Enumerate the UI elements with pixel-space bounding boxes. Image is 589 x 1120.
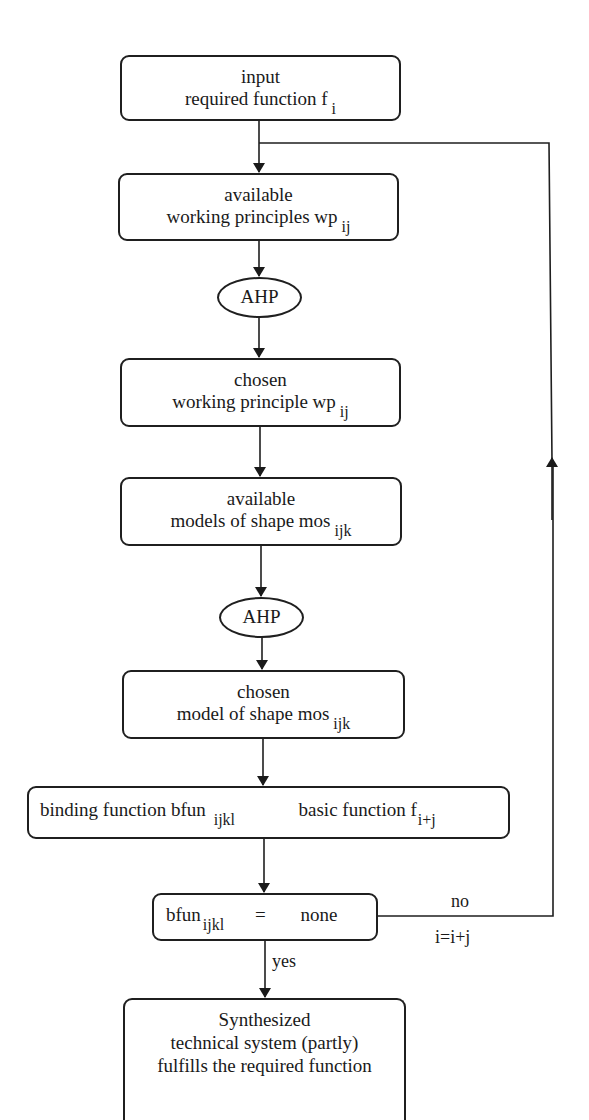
- node-result-line2: technical system (partly): [125, 1031, 404, 1054]
- node-chosen-model-of-shape: chosen model of shape mosijk: [122, 670, 405, 739]
- node-ahp-2: AHP: [219, 597, 304, 638]
- node-chosen-mos-line2: model of shape mos: [177, 703, 330, 724]
- node-result-synthesized-system: Synthesized technical system (partly) fu…: [123, 998, 406, 1120]
- node-result-line1: Synthesized: [125, 1008, 404, 1031]
- node-available-mos-subscript: ijk: [335, 522, 352, 539]
- node-available-wp-subscript: ij: [342, 218, 351, 235]
- node-input-line1: input: [122, 66, 399, 88]
- node-input-subscript: i: [332, 100, 336, 117]
- node-ahp-2-label: AHP: [242, 606, 280, 627]
- node-chosen-mos-subscript: ijk: [333, 715, 350, 732]
- node-available-mos-line1: available: [122, 488, 400, 510]
- node-available-working-principles: available working principles wpij: [118, 173, 399, 241]
- node-binding-left: binding function bfun: [40, 799, 206, 820]
- node-input: input required function fi: [120, 55, 401, 121]
- edge-label-yes: yes: [272, 951, 296, 972]
- node-chosen-working-principle: chosen working principle wpij: [120, 358, 401, 427]
- node-available-wp-line2: working principles wp: [167, 206, 338, 227]
- node-decision-right: none: [300, 904, 337, 925]
- node-decision-left: bfun: [166, 904, 201, 925]
- node-binding-left-subscript: ijkl: [214, 811, 235, 828]
- edge-label-increment: i=i+j: [435, 927, 470, 948]
- edge-label-no: no: [451, 891, 469, 912]
- node-result-line3: fulfills the required function: [125, 1054, 404, 1077]
- node-available-models-of-shape: available models of shape mosijk: [120, 477, 402, 546]
- node-binding-right: basic function f: [299, 799, 417, 820]
- node-binding-function: binding function bfunijkl basic function…: [27, 786, 510, 839]
- node-chosen-wp-subscript: ij: [340, 403, 349, 420]
- node-available-wp-line1: available: [120, 184, 397, 206]
- node-available-mos-line2: models of shape mos: [171, 510, 331, 531]
- node-chosen-mos-line1: chosen: [124, 681, 403, 703]
- node-chosen-wp-line1: chosen: [122, 369, 399, 391]
- node-decision-bfun-none: bfunijkl = none: [152, 893, 378, 941]
- node-ahp-1-label: AHP: [240, 286, 278, 307]
- node-ahp-1: AHP: [217, 277, 302, 318]
- node-chosen-wp-line2: working principle wp: [172, 391, 336, 412]
- node-decision-subscript: ijkl: [203, 916, 224, 933]
- node-decision-operator: =: [255, 904, 266, 925]
- node-input-line2: required function f: [185, 88, 327, 109]
- node-binding-right-subscript: i+j: [418, 811, 436, 828]
